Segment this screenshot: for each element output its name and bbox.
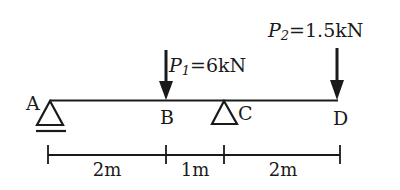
load-p2-symbol: P (267, 19, 282, 41)
load-p1-value: =6kN (190, 54, 246, 76)
dimension-label-cd: 2m (269, 159, 298, 180)
point-label-c: C (238, 102, 253, 124)
point-label-b: B (160, 106, 174, 128)
load-p2-value: =1.5kN (289, 19, 363, 41)
point-label-a: A (25, 92, 40, 114)
dimension-label-bc: 1m (181, 159, 210, 180)
roller-support-c-icon (212, 101, 237, 124)
load-p2-subscript: 2 (280, 28, 289, 43)
beam-diagram: A B C D P1=6kN P2=1.5kN 2m 1m 2m (0, 0, 400, 190)
point-label-d: D (333, 107, 348, 129)
load-p2-label: P2=1.5kN (267, 19, 363, 43)
dimension-label-ab: 2m (93, 159, 122, 180)
pin-support-a-icon (36, 101, 66, 131)
load-p1-subscript: 1 (182, 63, 190, 78)
load-p2-arrow-icon (330, 48, 344, 100)
load-p1-label: P1=6kN (168, 54, 246, 78)
load-p1-symbol: P (168, 54, 183, 76)
